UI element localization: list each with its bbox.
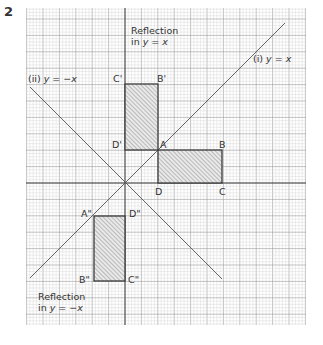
label-B: B bbox=[219, 139, 226, 150]
rectangle-abcd bbox=[158, 150, 222, 183]
reflection-diagram: A B C D A' B' C' D' A" B" C" D" (i) y = … bbox=[0, 0, 323, 345]
label-A: A bbox=[160, 139, 167, 150]
line-label-i: (i) y = x bbox=[253, 53, 292, 64]
label-D-double-prime: D" bbox=[129, 208, 141, 219]
label-C-prime: C' bbox=[113, 73, 122, 84]
label-B-prime: B' bbox=[157, 73, 166, 84]
caption-reflection-y-eq-neg-x: Reflection in y = −x bbox=[38, 291, 88, 313]
label-A-double-prime: A" bbox=[81, 208, 92, 219]
rectangle-a2b2c2d2 bbox=[94, 216, 125, 281]
line-label-ii: (ii) y = −x bbox=[28, 73, 77, 84]
rectangle-a1b1c1d1 bbox=[125, 84, 158, 150]
label-C: C bbox=[219, 186, 226, 197]
label-D-prime: D' bbox=[112, 139, 122, 150]
caption-reflection-y-eq-x: Reflection in y = x bbox=[131, 25, 181, 47]
label-C-double-prime: C" bbox=[128, 274, 139, 285]
label-B-double-prime: B" bbox=[79, 274, 90, 285]
label-D: D bbox=[155, 186, 162, 197]
